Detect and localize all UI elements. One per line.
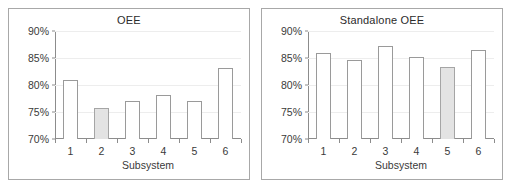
x-tick-mark (148, 139, 149, 143)
y-tick-label: 85% (281, 52, 302, 64)
bar-slot: 3 (370, 31, 401, 139)
x-axis-title-standalone-oee: Subsystem (308, 159, 494, 171)
x-tick-mark (432, 139, 433, 143)
x-tick-mark (494, 139, 495, 143)
bar[interactable] (218, 68, 233, 139)
y-tick-label: 85% (28, 52, 49, 64)
x-tick-label: 6 (463, 145, 494, 157)
y-tick-label: 75% (281, 106, 302, 118)
bar[interactable] (63, 80, 78, 139)
y-tick-label: 70% (28, 133, 49, 145)
bar-slot: 1 (55, 31, 86, 139)
x-tick-label: 3 (117, 145, 148, 157)
x-tick-mark (370, 139, 371, 143)
y-tick-label: 75% (28, 106, 49, 118)
bar[interactable] (378, 46, 393, 139)
bar[interactable] (409, 57, 424, 139)
x-tick-mark (86, 139, 87, 143)
bar-slot: 2 (86, 31, 117, 139)
bar[interactable] (94, 108, 109, 139)
x-axis-title-oee: Subsystem (55, 159, 241, 171)
x-tick-label: 4 (401, 145, 432, 157)
x-tick-mark (463, 139, 464, 143)
plot-area-standalone-oee: 70%75%80%85%90%123456 (308, 31, 494, 139)
bar-group: 123456 (55, 31, 241, 139)
chart-panel-oee: OEE 70%75%80%85%90%123456 Subsystem (8, 8, 250, 180)
x-tick-mark (179, 139, 180, 143)
x-tick-mark (401, 139, 402, 143)
plot-area-oee: 70%75%80%85%90%123456 (55, 31, 241, 139)
x-tick-label: 4 (148, 145, 179, 157)
chart-panel-standalone-oee: Standalone OEE 70%75%80%85%90%123456 Sub… (261, 8, 503, 180)
bar[interactable] (125, 101, 140, 139)
bar-slot: 4 (401, 31, 432, 139)
bar[interactable] (471, 50, 486, 139)
x-tick-label: 1 (55, 145, 86, 157)
x-tick-label: 5 (179, 145, 210, 157)
x-tick-label: 5 (432, 145, 463, 157)
bar[interactable] (156, 95, 171, 139)
y-tick-label: 90% (28, 25, 49, 37)
x-tick-label: 2 (339, 145, 370, 157)
y-tick-label: 80% (281, 79, 302, 91)
bar-slot: 4 (148, 31, 179, 139)
bar-slot: 1 (308, 31, 339, 139)
bar-slot: 6 (210, 31, 241, 139)
bar[interactable] (347, 60, 362, 139)
bar-group: 123456 (308, 31, 494, 139)
x-tick-mark (117, 139, 118, 143)
y-tick-label: 80% (28, 79, 49, 91)
bar-slot: 6 (463, 31, 494, 139)
x-tick-label: 6 (210, 145, 241, 157)
y-tick-label: 70% (281, 133, 302, 145)
bar[interactable] (187, 101, 202, 139)
x-tick-label: 3 (370, 145, 401, 157)
bar-slot: 5 (432, 31, 463, 139)
x-tick-mark (339, 139, 340, 143)
x-tick-mark (210, 139, 211, 143)
x-tick-mark (55, 139, 56, 143)
bar-slot: 2 (339, 31, 370, 139)
dual-bar-chart-figure: OEE 70%75%80%85%90%123456 Subsystem Stan… (0, 0, 511, 193)
x-tick-label: 2 (86, 145, 117, 157)
x-tick-label: 1 (308, 145, 339, 157)
bar-slot: 5 (179, 31, 210, 139)
y-tick-label: 90% (281, 25, 302, 37)
bar[interactable] (440, 67, 455, 139)
x-tick-mark (241, 139, 242, 143)
x-tick-mark (308, 139, 309, 143)
bar[interactable] (316, 53, 331, 139)
bar-slot: 3 (117, 31, 148, 139)
